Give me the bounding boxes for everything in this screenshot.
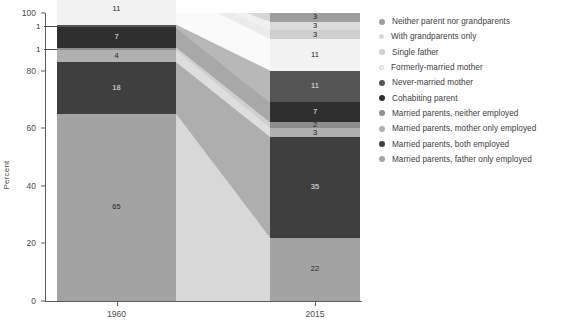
legend-item-label: Cohabiting parent	[392, 94, 458, 103]
legend-swatch-icon	[379, 141, 385, 147]
bar-segment-value: 11	[270, 83, 360, 91]
bar-segment-value: 11	[57, 5, 176, 13]
bar-segment-value: 11	[270, 51, 360, 59]
legend-swatch-icon	[379, 49, 385, 55]
legend-swatch-icon	[379, 126, 385, 132]
bar-segment[interactable]: 3	[270, 22, 360, 31]
legend-item-label: Married parents, mother only employed	[392, 124, 536, 133]
legend-item-label: Single father	[392, 48, 439, 57]
chart-legend: Neither parent nor grandparentsWith gran…	[379, 14, 567, 167]
bar-segment-value: 3	[270, 129, 360, 137]
y-axis-line	[45, 13, 46, 301]
legend-item-label: Married parents, neither employed	[392, 109, 518, 118]
bar-segment[interactable]: 11	[270, 39, 360, 71]
bar-segment-value: 7	[270, 109, 360, 117]
plot-area: 651847112 22353271111333 11	[57, 13, 360, 301]
callout-leader-line	[44, 26, 57, 27]
y-tick-label: 40	[0, 181, 41, 191]
legend-swatch-icon	[379, 34, 384, 39]
bar-segment[interactable]	[57, 25, 176, 28]
y-tick-mark	[41, 185, 45, 186]
bar-segment-value: 7	[57, 34, 176, 42]
bar-segment-value: 22	[270, 266, 360, 274]
bar-segment[interactable]: 11	[270, 71, 360, 103]
y-tick-mark	[41, 243, 45, 244]
legend-swatch-icon	[379, 95, 385, 101]
legend-item-label: Neither parent nor grandparents	[392, 17, 510, 26]
bar-segment[interactable]: 22	[270, 238, 360, 301]
legend-item-label: Never-married mother	[392, 78, 473, 87]
x-tick-mark	[315, 302, 316, 306]
legend-item[interactable]: Formerly-married mother	[379, 60, 567, 75]
bar-column-1960[interactable]: 651847112	[57, 13, 176, 301]
bar-segment[interactable]: 3	[270, 13, 360, 22]
bar-segment[interactable]: 3	[270, 128, 360, 137]
bar-segment[interactable]: 11	[57, 0, 176, 25]
legend-item-label: Married parents, father only employed	[392, 155, 532, 164]
bar-segment[interactable]: 7	[57, 27, 176, 47]
y-tick-label: 0	[0, 296, 41, 306]
legend-item[interactable]: Cohabiting parent	[379, 90, 567, 105]
legend-item[interactable]: Married parents, father only employed	[379, 152, 567, 167]
callout-value: 1	[36, 21, 40, 30]
bar-column-2015[interactable]: 22353271111333	[270, 13, 360, 301]
bar-segment-value: 2	[270, 122, 360, 130]
legend-item-label: With grandparents only	[391, 32, 476, 41]
y-tick-label: 100	[0, 8, 41, 18]
legend-item-label: Married parents, both employed	[392, 140, 509, 149]
legend-swatch-icon	[379, 80, 385, 86]
y-tick-mark	[41, 70, 45, 71]
bar-segment[interactable]: 3	[270, 30, 360, 39]
bar-segment[interactable]	[57, 48, 176, 51]
legend-item[interactable]: With grandparents only	[379, 29, 567, 44]
bar-segment-value: 3	[270, 14, 360, 22]
stacked-bar-chart: Percent 020406080100 19602015 651847112 …	[0, 0, 569, 330]
y-tick-label: 60	[0, 123, 41, 133]
y-tick-label: 20	[0, 238, 41, 248]
bar-segment-value: 3	[270, 31, 360, 39]
bar-segment[interactable]: 7	[270, 102, 360, 122]
bar-segment-value: 3	[270, 22, 360, 30]
bar-segment-value: 35	[270, 183, 360, 191]
legend-item[interactable]: Neither parent nor grandparents	[379, 14, 567, 29]
legend-swatch-icon	[379, 156, 385, 162]
callout-leader-line	[44, 49, 57, 50]
y-tick-mark	[41, 13, 45, 14]
bar-segment[interactable]: 35	[270, 137, 360, 238]
bar-segment[interactable]: 2	[270, 122, 360, 128]
y-tick-mark	[41, 128, 45, 129]
bar-segment-value: 4	[57, 52, 176, 60]
legend-item[interactable]: Married parents, both employed	[379, 136, 567, 151]
x-tick-label: 2015	[306, 309, 325, 319]
legend-swatch-icon	[379, 65, 384, 70]
bar-segment-value: 65	[57, 204, 176, 212]
legend-item[interactable]: Single father	[379, 45, 567, 60]
bar-segment[interactable]: 18	[57, 62, 176, 114]
legend-item-label: Formerly-married mother	[391, 63, 483, 72]
legend-item[interactable]: Never-married mother	[379, 75, 567, 90]
legend-item[interactable]: Married parents, mother only employed	[379, 121, 567, 136]
legend-item[interactable]: Married parents, neither employed	[379, 106, 567, 121]
bar-segment-value: 18	[57, 84, 176, 92]
bar-segment[interactable]: 65	[57, 114, 176, 301]
callout-value: 1	[36, 45, 40, 54]
y-tick-label: 80	[0, 66, 41, 76]
legend-swatch-icon	[379, 19, 385, 25]
x-tick-label: 1960	[107, 309, 126, 319]
legend-swatch-icon	[379, 110, 385, 116]
bar-segment[interactable]: 4	[57, 50, 176, 62]
x-tick-mark	[117, 302, 118, 306]
